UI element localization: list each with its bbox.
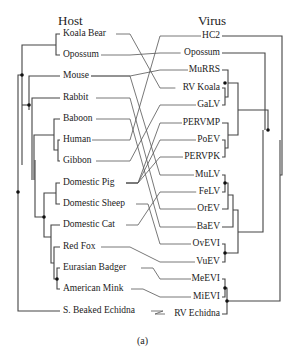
tangle-link (101, 247, 196, 262)
virus-label: MuLV (194, 169, 221, 180)
host-label: Red Fox (62, 241, 96, 252)
virus-label: FeLV (198, 186, 221, 197)
virus-tree (222, 36, 282, 314)
tangle-link (141, 268, 191, 279)
host-tree (18, 34, 60, 311)
tangle-link (116, 34, 175, 88)
virus-label: HC2 (201, 30, 221, 41)
virus-label: RV Koala (182, 82, 221, 93)
virus-label: BaEV (196, 221, 221, 232)
host-tree-nodes (16, 73, 59, 281)
virus-label: MeEVI (191, 273, 222, 284)
host-label: S. Beaked Echidna (62, 305, 136, 316)
host-label: Domestic Pig (62, 177, 115, 188)
figure-caption: (a) (137, 335, 148, 346)
tangle-link (91, 70, 191, 76)
virus-label: RV Echidna (173, 308, 221, 319)
host-label: American Mink (62, 283, 124, 294)
host-label: Rabbit (62, 92, 89, 103)
host-label: Domestic Cat (62, 219, 116, 230)
virus-label: OrEV (196, 203, 221, 214)
tangle-link (151, 311, 165, 314)
host-label: Mouse (62, 70, 90, 81)
host-label: Domestic Sheep (62, 198, 126, 209)
tangle-link (126, 123, 186, 183)
virus-label: MiEVI (192, 291, 221, 302)
host-label: Koala Bear (62, 28, 107, 39)
virus-label: PERVMP (182, 117, 221, 128)
tangle-link (91, 76, 196, 175)
virus-label: GaLV (196, 99, 221, 110)
virus-label: VuEV (195, 256, 221, 267)
host-label: Baboon (62, 113, 94, 124)
host-header: Host (58, 13, 83, 29)
tangle-link (126, 192, 196, 225)
virus-label: OvEVI (192, 238, 221, 249)
host-label: Gibbon (62, 155, 93, 166)
tangle-link (136, 204, 191, 244)
host-label: Human (62, 134, 92, 145)
virus-label: PERVPK (183, 151, 221, 162)
virus-header: Virus (198, 13, 226, 29)
virus-label: Opossum (183, 47, 221, 58)
host-label: Eurasian Badger (62, 262, 127, 273)
virus-label: MuRRS (188, 64, 221, 75)
virus-label: PoEV (196, 134, 221, 145)
tanglegram-canvas (0, 0, 298, 355)
host-label: Opossum (62, 49, 100, 60)
tangle-link (96, 105, 196, 161)
tangle-link (131, 289, 191, 297)
